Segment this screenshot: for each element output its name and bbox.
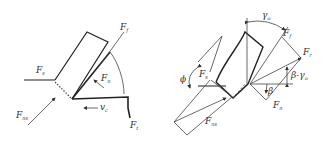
force-line-fn — [250, 84, 266, 100]
chip-outline — [216, 32, 263, 84]
force-line-fs-ext — [198, 36, 222, 62]
label-beta: β — [267, 86, 273, 96]
gamma-angle-arc — [248, 21, 285, 30]
phi-angle-arc — [189, 67, 198, 88]
beta-arc — [266, 84, 267, 93]
force-arrow-fns — [174, 98, 226, 122]
label-fs: Fs — [35, 65, 45, 76]
label-fn: Fn — [272, 100, 282, 111]
label-beta-gamma: β-γo — [290, 70, 308, 81]
force-line-fs — [210, 36, 222, 72]
force-parallelogram-left — [211, 80, 232, 97]
label-fr: Fr — [302, 47, 312, 58]
label-phi: ϕ — [180, 74, 186, 84]
label-gamma: γo — [262, 10, 270, 21]
label-fns: Fns — [15, 110, 28, 121]
label-fs: Fs — [198, 69, 208, 80]
shear-plane — [55, 82, 72, 99]
left-panel: Ff Fs Fn Fns vc Ft — [15, 22, 139, 131]
label-fns: Fns — [204, 116, 217, 127]
right-panel: γo Ff Fr β-γo β Fn Fs ϕ Fns — [174, 10, 312, 135]
label-fn: Fn — [100, 73, 110, 84]
force-arrow-fns — [28, 98, 55, 125]
tool-arc — [110, 52, 124, 94]
label-vc: vc — [100, 102, 108, 113]
cutting-force-diagram: Ff Fs Fn Fns vc Ft γo Ff — [0, 0, 326, 149]
label-ft: Ft — [129, 120, 139, 131]
force-parallelogram-bottom — [174, 122, 187, 135]
force-parallelogram-top — [282, 37, 301, 58]
chip-base — [216, 82, 248, 98]
